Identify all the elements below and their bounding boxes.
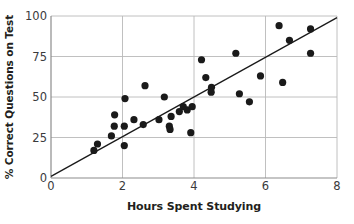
data-point bbox=[111, 123, 118, 130]
data-point bbox=[279, 79, 286, 86]
data-point bbox=[90, 147, 97, 154]
data-point bbox=[198, 56, 205, 63]
data-point bbox=[108, 132, 115, 139]
plot-svg bbox=[51, 16, 337, 178]
scatter-plot-figure: % Correct Questions on Test 0255075100 0… bbox=[0, 0, 354, 224]
data-point bbox=[130, 116, 137, 123]
data-point bbox=[141, 82, 148, 89]
y-tick-label: 100 bbox=[5, 9, 51, 23]
data-point bbox=[257, 72, 264, 79]
data-point bbox=[94, 140, 101, 147]
data-point bbox=[208, 89, 215, 96]
data-point bbox=[236, 90, 243, 97]
data-point bbox=[246, 98, 253, 105]
data-point bbox=[232, 50, 239, 57]
x-tick-label: 8 bbox=[322, 179, 352, 193]
data-point bbox=[307, 25, 314, 32]
plot-area bbox=[51, 16, 337, 178]
data-point bbox=[307, 50, 314, 57]
y-tick-label: 25 bbox=[5, 131, 51, 145]
data-point bbox=[121, 95, 128, 102]
data-points bbox=[90, 22, 314, 154]
y-tick-label: 75 bbox=[5, 50, 51, 64]
y-tick-label: 50 bbox=[5, 90, 51, 104]
x-tick-label: 4 bbox=[179, 179, 209, 193]
data-point bbox=[166, 126, 173, 133]
data-point bbox=[121, 142, 128, 149]
data-point bbox=[275, 22, 282, 29]
data-point bbox=[189, 103, 196, 110]
data-point bbox=[161, 93, 168, 100]
data-point bbox=[286, 37, 293, 44]
data-point bbox=[121, 123, 128, 130]
data-point bbox=[111, 111, 118, 118]
data-point bbox=[202, 74, 209, 81]
data-point bbox=[155, 116, 162, 123]
data-point bbox=[168, 113, 175, 120]
x-tick-label: 0 bbox=[36, 179, 66, 193]
data-point bbox=[140, 121, 147, 128]
x-tick-label: 6 bbox=[251, 179, 281, 193]
x-tick-label: 2 bbox=[108, 179, 138, 193]
data-point bbox=[187, 129, 194, 136]
x-axis-tick-labels: 02468 bbox=[51, 179, 337, 199]
x-axis-title: Hours Spent Studying bbox=[51, 200, 337, 213]
y-axis-tick-labels: 0255075100 bbox=[0, 16, 51, 178]
